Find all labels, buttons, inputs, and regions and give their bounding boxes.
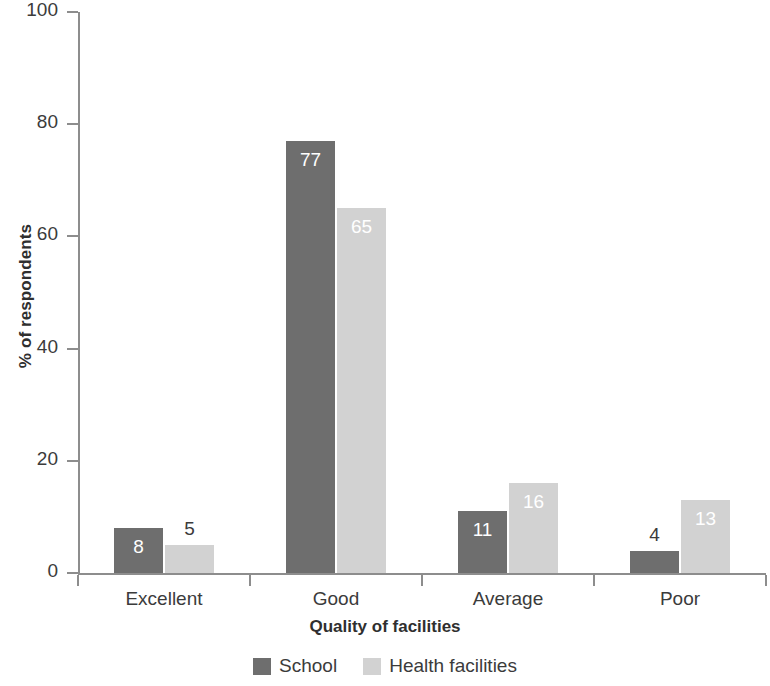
bar-school-poor: 4 [630,551,679,573]
y-axis-tick-label: 60 [0,223,58,245]
y-axis-tick-label: 100 [0,0,58,21]
bar-value-label: 77 [286,150,335,169]
y-axis-tick [67,460,78,462]
bar-school-good: 77 [286,141,335,573]
bar-value-label: 8 [114,537,163,556]
bar-value-label: 4 [630,525,679,544]
bar-health-excellent: 5 [165,545,214,573]
y-axis-tick [67,572,78,574]
bar-school-average: 11 [458,511,507,573]
x-axis-tick [593,575,595,586]
legend-entry-school[interactable]: School [253,655,337,677]
bar-value-label: 11 [458,520,507,539]
bar-chart: % of respondents 020406080100 8577651116… [0,0,770,686]
y-axis-tick-label: 80 [0,111,58,133]
y-axis-tick [67,348,78,350]
bar-health-good: 65 [337,208,386,573]
bar-value-label: 13 [681,509,730,528]
y-axis-tick [67,11,78,13]
legend-label: School [279,655,337,677]
bar-value-label: 5 [165,519,214,538]
bar-school-excellent: 8 [114,528,163,573]
bar-value-label: 65 [337,217,386,236]
x-axis-label-good: Good [250,588,422,610]
x-axis-label-excellent: Excellent [78,588,250,610]
y-axis-title: % of respondents [16,186,36,406]
x-axis-tick [249,575,251,586]
x-axis-label-poor: Poor [594,588,766,610]
y-axis-tick-label: 40 [0,336,58,358]
chart-legend: SchoolHealth facilities [0,655,770,677]
x-axis-tick [77,575,79,586]
bar-value-label: 16 [509,492,558,511]
x-axis-title: Quality of facilities [0,617,770,637]
y-axis-line [78,12,80,574]
y-axis-tick-label: 0 [0,560,58,582]
legend-label: Health facilities [389,655,517,677]
legend-swatch-school [253,658,271,675]
x-axis-label-average: Average [422,588,594,610]
y-axis-tick-label: 20 [0,448,58,470]
legend-swatch-health [363,658,381,675]
bar-health-average: 16 [509,483,558,573]
x-axis-tick [421,575,423,586]
bar-health-poor: 13 [681,500,730,573]
x-axis-tick [765,575,767,586]
y-axis-tick [67,123,78,125]
y-axis-tick [67,235,78,237]
legend-entry-health[interactable]: Health facilities [363,655,517,677]
